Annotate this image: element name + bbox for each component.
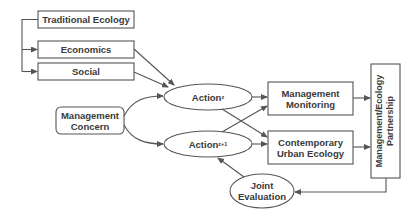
action-z1-text: Action — [189, 139, 219, 150]
edge-concern-action-z1 — [124, 125, 163, 144]
management-concern-line1: Management — [61, 110, 119, 121]
contemporary-urban-ecology-label: Contemporary Urban Ecology — [268, 131, 353, 164]
partnership-label: Management/Ecology Partnership — [374, 64, 396, 178]
edge-partnership-joint — [295, 178, 386, 192]
action-z1-label: Actionz+1 — [164, 137, 252, 151]
joint-evaluation-label: Joint Evaluation — [230, 176, 294, 206]
edge-joint-action-z1 — [218, 158, 244, 177]
management-concern-line2: Concern — [71, 121, 110, 132]
traditional-ecology-text: Traditional Ecology — [42, 14, 130, 25]
contemporary-urban-ecology-line2: Urban Ecology — [277, 148, 344, 159]
contemporary-urban-ecology-line1: Contemporary — [278, 137, 343, 148]
action-z-text: Action — [192, 92, 222, 103]
social-label: Social — [38, 63, 134, 80]
management-monitoring-label: Management Monitoring — [268, 82, 353, 115]
edge-economics-action-z — [134, 49, 174, 85]
management-monitoring-line1: Management — [281, 88, 339, 99]
traditional-ecology-label: Traditional Ecology — [38, 11, 134, 28]
edge-concern-action-z — [124, 96, 163, 116]
edge-action-z1-monitoring — [222, 106, 267, 132]
partnership-line2: Partnership — [385, 96, 396, 146]
social-text: Social — [72, 66, 100, 77]
joint-evaluation-line1: Joint — [251, 180, 274, 191]
management-concern-label: Management Concern — [56, 107, 124, 134]
edge-social-action-z — [134, 72, 168, 87]
management-monitoring-line2: Monitoring — [286, 99, 335, 110]
action-z-label: Actionz — [164, 90, 252, 104]
joint-evaluation-line2: Evaluation — [238, 191, 286, 202]
diagram-canvas: Traditional Ecology Economics Social Man… — [0, 0, 420, 214]
partnership-line1: Management/Ecology — [374, 75, 385, 168]
economics-label: Economics — [38, 41, 134, 58]
economics-text: Economics — [61, 44, 112, 55]
edge-traditional-bracket — [22, 20, 38, 72]
